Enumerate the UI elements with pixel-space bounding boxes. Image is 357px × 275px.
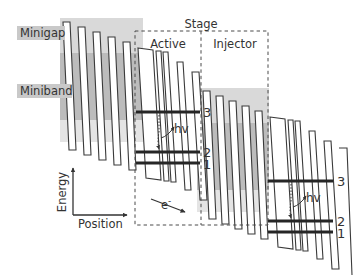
electron-label-group: e - bbox=[161, 196, 171, 212]
minigap-label: Minigap bbox=[20, 26, 65, 40]
axes bbox=[73, 168, 127, 215]
active-region-wells-right bbox=[270, 117, 339, 269]
active-label: Active bbox=[150, 37, 186, 51]
level-1-label-right: 1 bbox=[337, 226, 345, 241]
position-axis-label: Position bbox=[78, 217, 123, 231]
active-barrier bbox=[324, 141, 339, 269]
active-region-wells-left bbox=[138, 48, 207, 200]
level-1-label-left: 1 bbox=[203, 157, 211, 172]
right-tail-edge bbox=[339, 148, 352, 275]
diagram-canvas: Minigap Miniband Stage Active Injector E… bbox=[0, 0, 357, 275]
energy-axis-label: Energy bbox=[55, 172, 69, 212]
minigap-label-group: Minigap bbox=[17, 26, 65, 40]
photon-label-right: hv bbox=[306, 191, 321, 205]
electron-superscript: - bbox=[168, 196, 171, 206]
stage-label: Stage bbox=[184, 17, 217, 31]
miniband-label: Miniband bbox=[20, 84, 73, 98]
level-3-label-right: 3 bbox=[337, 174, 345, 189]
level-3-label-left: 3 bbox=[203, 105, 211, 120]
miniband-label-group: Miniband bbox=[17, 84, 73, 98]
photon-label-left: hv bbox=[174, 122, 189, 136]
band-diagram-figure: Minigap Miniband Stage Active Injector E… bbox=[0, 0, 357, 275]
injector-label: Injector bbox=[213, 37, 257, 51]
